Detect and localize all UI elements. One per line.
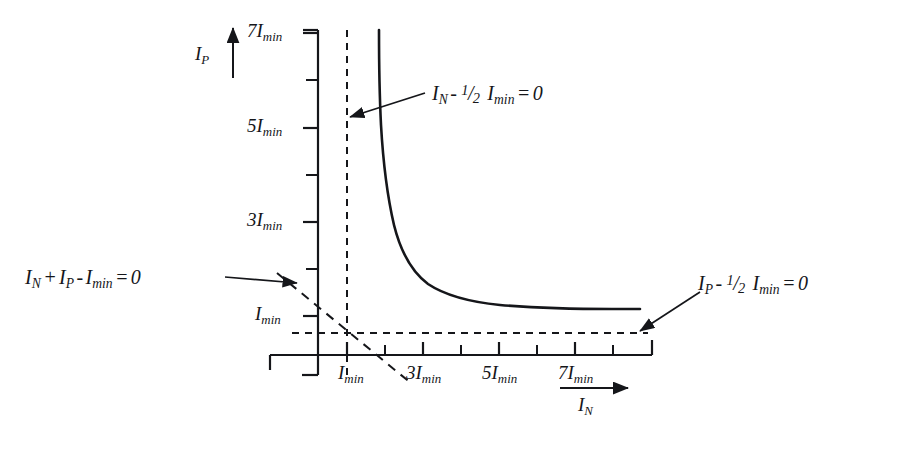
y-axis-name-label: IP (195, 44, 209, 67)
y-tick-label-5: 5Imin (247, 116, 282, 139)
x-axis (270, 340, 652, 370)
x-axis-name-label: IN (578, 395, 593, 418)
y-tick-label-3: 3Imin (247, 210, 282, 233)
x-tick-label-3: 3Imin (406, 363, 441, 386)
graph-figure: IP IN 7Imin 5Imin 3Imin Imin Imin 3Imin … (0, 0, 904, 458)
horizontal-constraint-leader-arrow (640, 292, 700, 331)
diagonal-constraint-label: IN+IP-Imin=0 (25, 267, 141, 290)
hyperbola-curve (379, 30, 640, 309)
y-tick-label-7: 7Imin (247, 21, 282, 44)
x-tick-label-5: 5Imin (482, 363, 517, 386)
x-tick-label-7: 7Imin (558, 363, 593, 386)
horizontal-constraint-label: IP-1/2 Imin=0 (698, 273, 808, 296)
y-axis (302, 30, 318, 375)
graph-canvas (0, 0, 904, 458)
x-tick-label-1: Imin (338, 363, 364, 386)
y-tick-label-1: Imin (255, 304, 281, 327)
vertical-constraint-leader-arrow (350, 93, 425, 117)
diagonal-constraint-leader-arrow (225, 277, 297, 283)
vertical-constraint-label: IN-1/2 Imin=0 (432, 83, 543, 106)
